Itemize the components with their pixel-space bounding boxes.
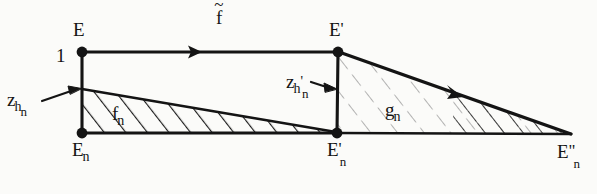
annotation-label-z-h-prime-n: zh'n (286, 72, 310, 91)
vertex-label-E-prime-text: E (329, 19, 341, 40)
diagram-canvas: E 1 ~ f E' zhn zh'n fn gn En E'n E"n (0, 0, 597, 194)
vertex-dot-E-n-prime (332, 128, 343, 139)
diagram-vector-layer (0, 0, 597, 194)
edge-label-f-tilde: ~ f (216, 8, 222, 27)
vertex-dot-E-prime (333, 47, 344, 58)
edge-bottom-right (337, 133, 571, 134)
vertex-label-E-n: En (72, 140, 91, 159)
E-n-base-text: E (72, 139, 84, 160)
E-n-sub-text: n (83, 149, 90, 164)
f-n-sub-text: n (117, 113, 124, 128)
edge-mid-vertical (337, 52, 338, 133)
E-n-dprime-base-text: E (557, 141, 569, 162)
prime-mark: ' (341, 19, 344, 38)
vertex-label-E: E (73, 20, 85, 39)
edge-label-one: 1 (56, 46, 66, 65)
vertex-label-E-n-prime: E'n (327, 140, 348, 159)
E-n-prime-sub-text: n (340, 154, 347, 169)
vertex-label-E-n-double-prime: E"n (557, 142, 582, 161)
vertex-label-E-prime: E' (329, 20, 344, 39)
tilde-accent: ~ (214, 0, 223, 13)
vertex-dot-E-n (77, 128, 88, 139)
z-subsub-n-text: n (20, 104, 27, 119)
pointer-head-zhnprime (324, 83, 337, 92)
region-label-f-n: fn (112, 104, 125, 123)
g-n-sub-text: n (394, 109, 401, 124)
f-tilde-group: ~ f (216, 8, 222, 27)
zp-subsub-n-text: n (302, 86, 309, 101)
vertex-label-E-text: E (73, 19, 85, 40)
E-n-prime-base-text: E (327, 139, 339, 160)
vertex-dot-E (77, 47, 88, 58)
edge-label-one-text: 1 (56, 45, 66, 66)
annotation-label-z-h-n: zhn (7, 90, 29, 109)
pointer-head-zhn (68, 86, 82, 94)
E-n-dprime-sub-text: n (574, 156, 581, 171)
region-label-g-n: gn (385, 100, 402, 119)
